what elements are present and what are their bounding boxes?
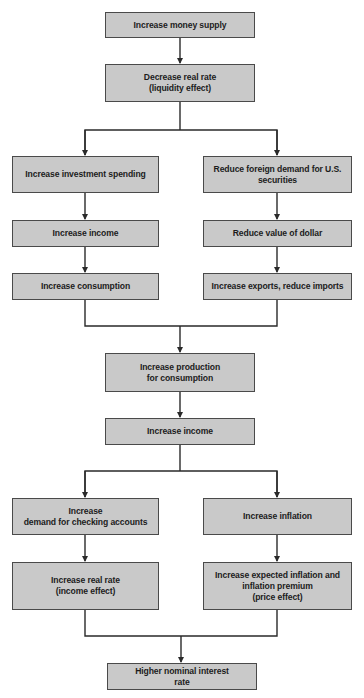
node-increase-real-rate: Increase real rate (income effect) bbox=[12, 562, 159, 610]
node-decrease-real-rate: Decrease real rate (liquidity effect) bbox=[105, 64, 255, 102]
node-higher-nominal-interest-rate: Higher nominal interest rate bbox=[107, 663, 257, 690]
node-increase-expected-inflation: Increase expected inflation and inflatio… bbox=[203, 562, 352, 610]
node-increase-demand-checking: Increase demand for checking accounts bbox=[12, 498, 159, 535]
flowchart: Increase money supply Decrease real rate… bbox=[0, 0, 364, 698]
node-increase-exports: Increase exports, reduce imports bbox=[203, 273, 352, 300]
node-increase-income-center: Increase income bbox=[105, 418, 255, 445]
node-reduce-foreign-demand: Reduce foreign demand for U.S. securitie… bbox=[203, 156, 352, 193]
node-increase-production: Increase production for consumption bbox=[105, 353, 255, 392]
node-increase-consumption: Increase consumption bbox=[12, 273, 159, 300]
node-increase-inflation: Increase inflation bbox=[203, 498, 352, 535]
node-increase-money-supply: Increase money supply bbox=[105, 12, 255, 38]
node-reduce-value-of-dollar: Reduce value of dollar bbox=[203, 220, 352, 247]
node-increase-investment-spending: Increase investment spending bbox=[12, 156, 159, 193]
node-increase-income-left: Increase income bbox=[12, 220, 159, 247]
